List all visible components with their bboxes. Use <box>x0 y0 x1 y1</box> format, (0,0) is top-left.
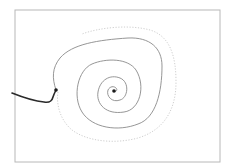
equilibrium-point-marker <box>112 89 116 93</box>
spiral-trajectory <box>53 38 162 128</box>
limit-cycle-dotted-curve <box>58 27 176 141</box>
diagram-canvas <box>0 0 228 168</box>
start-point-marker <box>54 88 58 92</box>
incoming-trajectory <box>12 90 56 102</box>
plot-frame <box>15 10 220 162</box>
phase-portrait-svg <box>0 0 228 168</box>
